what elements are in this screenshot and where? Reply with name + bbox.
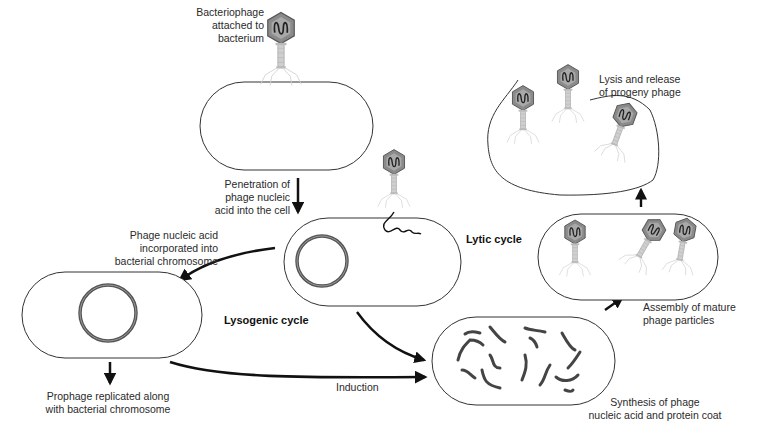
diagram-canvas xyxy=(0,0,759,437)
phage-icon xyxy=(552,65,584,123)
label-line: Synthesis of phage xyxy=(575,396,735,409)
label-assembly: Assembly of mature phage particles xyxy=(643,301,736,327)
cell-assembly xyxy=(538,212,718,300)
label-line: Lysis and release xyxy=(599,73,681,86)
label-line: phage particles xyxy=(643,314,736,327)
label-line: Assembly of mature xyxy=(643,301,736,314)
arrow-induction xyxy=(170,362,425,377)
label-prophage: Prophage replicated along with bacterial… xyxy=(38,390,178,416)
label-line: acid into the cell xyxy=(196,204,290,217)
label-lytic-cycle: Lytic cycle xyxy=(466,233,522,246)
label-lysis: Lysis and release of progeny phage xyxy=(599,73,681,99)
label-line: of progeny phage xyxy=(599,86,681,99)
label-line: attached to xyxy=(176,19,264,32)
label-line: Penetration of xyxy=(196,178,290,191)
label-penetration: Penetration of phage nucleic acid into t… xyxy=(196,178,290,217)
label-line: Bacteriophage xyxy=(176,6,264,19)
label-line: incorporated into xyxy=(100,242,218,255)
label-induction: Induction xyxy=(336,381,379,394)
phage-icon xyxy=(594,98,644,164)
cell-lysogen xyxy=(22,272,202,358)
label-line: Prophage replicated along xyxy=(38,390,178,403)
label-line: with bacterial chromosome xyxy=(38,403,178,416)
label-attached: Bacteriophage attached to bacterium xyxy=(176,6,264,45)
label-line: phage nucleic xyxy=(196,191,290,204)
label-synthesis: Synthesis of phage nucleic acid and prot… xyxy=(575,396,735,422)
label-incorporated: Phage nucleic acid incorporated into bac… xyxy=(100,229,218,268)
label-line: bacterial chromosome xyxy=(100,255,218,268)
label-line: Phage nucleic acid xyxy=(100,229,218,242)
phage-icon xyxy=(378,150,410,208)
phage-icon xyxy=(261,12,302,85)
arrow-lytic xyxy=(357,312,424,360)
cell-penetration xyxy=(284,150,461,306)
label-line: nucleic acid and protein coat xyxy=(575,409,735,422)
label-lysogenic-cycle: Lysogenic cycle xyxy=(224,314,309,327)
label-line: bacterium xyxy=(176,32,264,45)
phage-icon xyxy=(507,86,539,144)
cell-synthesis xyxy=(432,317,615,405)
